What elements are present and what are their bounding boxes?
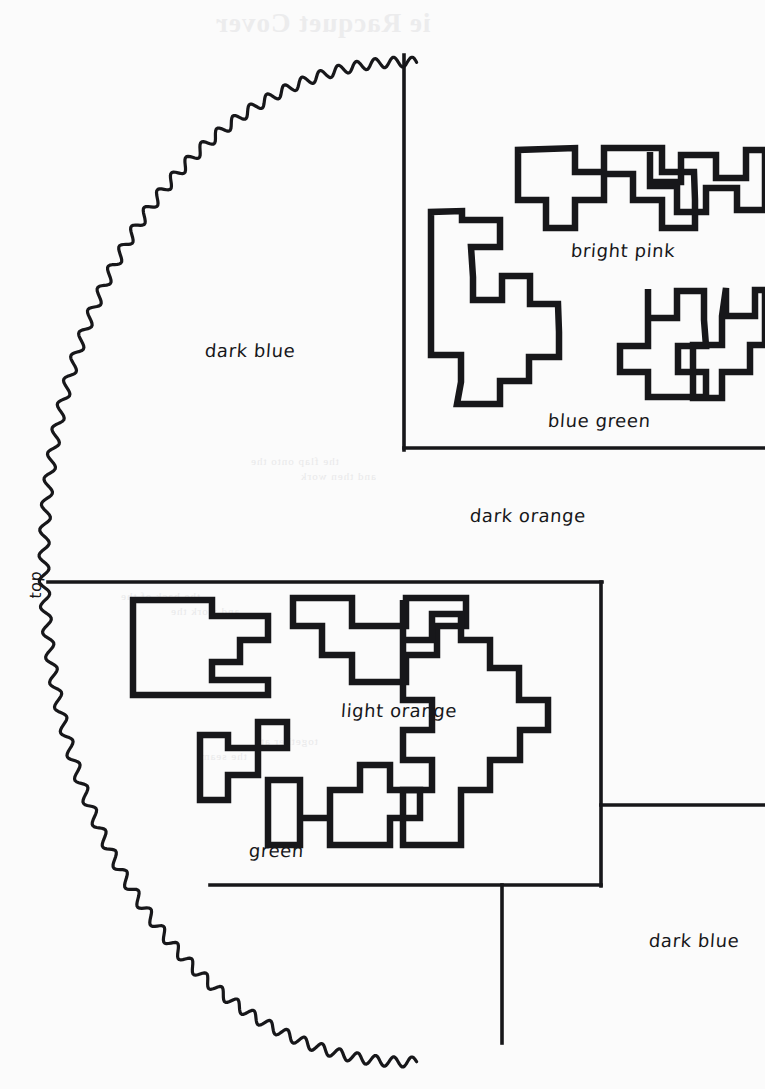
chart-drawing — [0, 0, 765, 1089]
motif-outline — [650, 150, 765, 212]
label-green: green — [248, 840, 304, 861]
motif-outline — [268, 765, 420, 845]
motif-outline — [403, 600, 548, 845]
motif-outline — [200, 722, 287, 800]
chart-page: ie Racquet Coverthe flap onto theand the… — [0, 0, 765, 1089]
label-dark-blue-2: dark blue — [648, 930, 740, 951]
label-light-orange: light orange — [340, 700, 458, 721]
motif-outline — [431, 211, 559, 404]
label-bright-pink: bright pink — [570, 240, 676, 261]
label-top: top — [26, 570, 45, 599]
label-blue-green: blue green — [547, 410, 651, 431]
scalloped-edge-path — [39, 57, 416, 1067]
motif-outline — [293, 598, 466, 682]
motif-outline — [133, 600, 268, 695]
label-dark-orange: dark orange — [469, 505, 586, 526]
scalloped-half-circle-outline — [39, 57, 416, 1067]
label-dark-blue-1: dark blue — [204, 340, 296, 361]
